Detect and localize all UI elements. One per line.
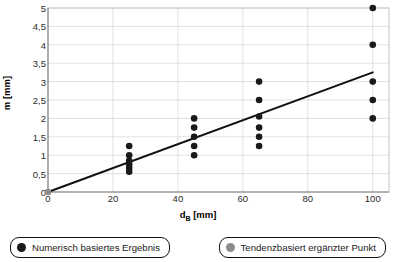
plot-area-wrapper: m [mm] 00,511,522,533,544,55 02040608010…	[0, 0, 396, 225]
legend-marker-dot	[226, 243, 235, 252]
grid-lines	[48, 8, 389, 192]
trend-line	[48, 72, 373, 192]
chart-legend: Numerisch basiertes Ergebnis Tendenzbasi…	[0, 232, 396, 262]
legend-item-trend-added[interactable]: Tendenzbasiert ergänzter Punkt	[219, 237, 386, 258]
legend-item-label: Tendenzbasiert ergänzter Punkt	[241, 242, 376, 253]
scatter-chart: m [mm] 00,511,522,533,544,55 02040608010…	[0, 0, 396, 262]
legend-marker-dot	[17, 243, 26, 252]
x-axis-label: dB [mm]	[0, 209, 396, 222]
legend-item-label: Numerisch basiertes Ergebnis	[32, 242, 160, 253]
legend-item-numerical[interactable]: Numerisch basiertes Ergebnis	[10, 237, 170, 258]
plot-canvas	[0, 0, 396, 225]
x-axis-label-unit: [mm]	[191, 209, 217, 220]
